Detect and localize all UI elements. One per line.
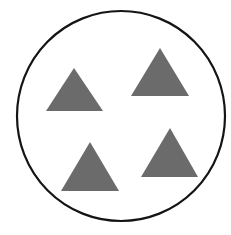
background-rect <box>0 0 231 235</box>
figure-canvas <box>0 0 231 235</box>
figure-svg <box>0 0 231 235</box>
